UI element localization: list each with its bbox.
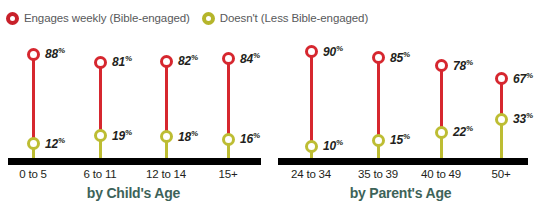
value-label-bible-engaged: 84% bbox=[240, 51, 260, 66]
marker-bible-engaged[interactable] bbox=[305, 45, 318, 58]
panel-title-parents-age: by Parent's Age bbox=[267, 185, 534, 201]
value-label-bible-engaged: 85% bbox=[390, 50, 410, 65]
marker-less-bible-engaged[interactable] bbox=[160, 130, 173, 143]
chart-legend: Engages weekly (Bible-engaged) Doesn't (… bbox=[6, 8, 368, 28]
marker-bible-engaged[interactable] bbox=[495, 72, 508, 85]
axis-tick-label: 24 to 34 bbox=[291, 168, 331, 180]
plot-area-parents-age: 90%10%85%15%78%22%67%33% bbox=[267, 30, 534, 160]
chart-panel-parents-age: 90%10%85%15%78%22%67%33% by Parent's Age… bbox=[267, 30, 534, 208]
marker-less-bible-engaged[interactable] bbox=[305, 140, 318, 153]
marker-less-bible-engaged[interactable] bbox=[27, 137, 40, 150]
marker-bible-engaged[interactable] bbox=[94, 56, 107, 69]
panel-title-childs-age: by Child's Age bbox=[0, 185, 267, 201]
legend-item-less-bible-engaged: Doesn't (Less Bible-engaged) bbox=[202, 12, 368, 25]
marker-bible-engaged[interactable] bbox=[160, 55, 173, 68]
axis-tick-label: 35 to 39 bbox=[358, 168, 398, 180]
value-label-bible-engaged: 81% bbox=[112, 54, 132, 69]
axis-tick-label: 0 to 5 bbox=[19, 168, 47, 180]
marker-bible-engaged[interactable] bbox=[27, 48, 40, 61]
legend-label-less-bible-engaged: Doesn't (Less Bible-engaged) bbox=[220, 12, 368, 24]
value-label-bible-engaged: 90% bbox=[323, 44, 343, 59]
value-label-less-bible-engaged: 10% bbox=[323, 138, 343, 153]
marker-bible-engaged[interactable] bbox=[372, 51, 385, 64]
axis-tick-label: 50+ bbox=[492, 168, 511, 180]
chart-container: Engages weekly (Bible-engaged) Doesn't (… bbox=[0, 0, 534, 208]
marker-less-bible-engaged[interactable] bbox=[372, 134, 385, 147]
legend-item-bible-engaged: Engages weekly (Bible-engaged) bbox=[6, 12, 190, 25]
value-label-less-bible-engaged: 18% bbox=[178, 129, 198, 144]
axis-baseline bbox=[8, 158, 261, 165]
axis-tick-label: 40 to 49 bbox=[421, 168, 461, 180]
value-label-less-bible-engaged: 12% bbox=[45, 136, 65, 151]
value-label-less-bible-engaged: 15% bbox=[390, 132, 410, 147]
value-label-less-bible-engaged: 16% bbox=[240, 131, 260, 146]
value-label-bible-engaged: 67% bbox=[513, 71, 533, 86]
marker-less-bible-engaged[interactable] bbox=[94, 129, 107, 142]
value-label-bible-engaged: 88% bbox=[45, 46, 65, 61]
marker-less-bible-engaged[interactable] bbox=[435, 126, 448, 139]
legend-label-bible-engaged: Engages weekly (Bible-engaged) bbox=[24, 12, 190, 24]
axis-tick-label: 12 to 14 bbox=[146, 168, 186, 180]
plot-area-childs-age: 88%12%81%19%82%18%84%16% bbox=[0, 30, 267, 160]
value-label-less-bible-engaged: 33% bbox=[513, 111, 533, 126]
value-label-less-bible-engaged: 19% bbox=[112, 128, 132, 143]
axis-tick-label: 15+ bbox=[219, 168, 238, 180]
value-label-bible-engaged: 78% bbox=[453, 58, 473, 73]
value-label-bible-engaged: 82% bbox=[178, 53, 198, 68]
value-label-less-bible-engaged: 22% bbox=[453, 124, 473, 139]
ring-icon bbox=[6, 12, 19, 25]
axis-baseline bbox=[278, 158, 528, 165]
marker-less-bible-engaged[interactable] bbox=[495, 113, 508, 126]
marker-bible-engaged[interactable] bbox=[435, 59, 448, 72]
marker-bible-engaged[interactable] bbox=[222, 52, 235, 65]
ring-icon bbox=[202, 12, 215, 25]
marker-less-bible-engaged[interactable] bbox=[222, 133, 235, 146]
axis-tick-label: 6 to 11 bbox=[84, 168, 117, 180]
chart-panel-childs-age: 88%12%81%19%82%18%84%16% by Child's Age … bbox=[0, 30, 267, 208]
